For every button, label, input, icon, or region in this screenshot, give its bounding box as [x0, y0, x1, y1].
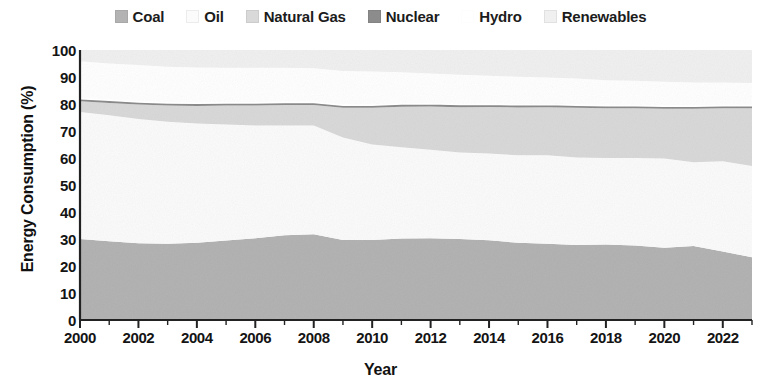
- x-tick-label-2020: 2020: [634, 330, 694, 345]
- x-axis-tick-labels: 2000200220042006200820102012201420162018…: [0, 330, 761, 354]
- y-tick-label-20: 20: [32, 259, 76, 274]
- x-tick-label-2002: 2002: [108, 330, 168, 345]
- legend-swatch-natural_gas-icon: [246, 10, 259, 23]
- legend-item-hydro[interactable]: Hydro: [461, 9, 521, 24]
- x-tick-label-2000: 2000: [50, 330, 110, 345]
- x-axis-tick-marks: [80, 320, 752, 328]
- legend-item-coal[interactable]: Coal: [115, 9, 165, 24]
- plot-svg: [80, 50, 752, 320]
- y-tick-label-0: 0: [32, 313, 76, 328]
- legend-swatch-hydro-icon: [461, 10, 474, 23]
- legend-label-nuclear: Nuclear: [386, 9, 440, 24]
- x-tick-label-2004: 2004: [167, 330, 227, 345]
- legend-swatch-nuclear-icon: [368, 10, 381, 23]
- legend-item-natural_gas[interactable]: Natural Gas: [246, 9, 346, 24]
- x-tick-label-2006: 2006: [225, 330, 285, 345]
- y-tick-label-90: 90: [32, 70, 76, 85]
- y-tick-label-80: 80: [32, 97, 76, 112]
- y-tick-label-100: 100: [32, 43, 76, 58]
- y-tick-label-10: 10: [32, 286, 76, 301]
- chart-legend: CoalOilNatural GasNuclearHydroRenewables: [0, 4, 761, 28]
- x-tick-label-2008: 2008: [284, 330, 344, 345]
- legend-swatch-renewables-icon: [544, 10, 557, 23]
- legend-label-coal: Coal: [133, 9, 165, 24]
- legend-swatch-oil-icon: [186, 10, 199, 23]
- legend-label-hydro: Hydro: [479, 9, 521, 24]
- area-series-coal: [80, 234, 752, 320]
- y-tick-label-40: 40: [32, 205, 76, 220]
- y-tick-label-30: 30: [32, 232, 76, 247]
- legend-swatch-coal-icon: [115, 10, 128, 23]
- stacked-area-chart: CoalOilNatural GasNuclearHydroRenewables…: [0, 0, 761, 389]
- legend-label-renewables: Renewables: [562, 9, 647, 24]
- y-tick-label-70: 70: [32, 124, 76, 139]
- x-tick-label-2012: 2012: [401, 330, 461, 345]
- y-tick-label-50: 50: [32, 178, 76, 193]
- legend-item-renewables[interactable]: Renewables: [544, 9, 647, 24]
- legend-label-oil: Oil: [204, 9, 223, 24]
- y-tick-label-60: 60: [32, 151, 76, 166]
- x-tick-label-2018: 2018: [576, 330, 636, 345]
- legend-item-oil[interactable]: Oil: [186, 9, 223, 24]
- area-series-group: [80, 50, 752, 320]
- plot-area: [80, 50, 752, 320]
- x-axis-title: Year: [0, 361, 761, 379]
- x-tick-label-2016: 2016: [517, 330, 577, 345]
- x-tick-label-2010: 2010: [342, 330, 402, 345]
- legend-label-natural_gas: Natural Gas: [264, 9, 346, 24]
- x-tick-label-2022: 2022: [693, 330, 753, 345]
- x-tick-label-2014: 2014: [459, 330, 519, 345]
- legend-item-nuclear[interactable]: Nuclear: [368, 9, 440, 24]
